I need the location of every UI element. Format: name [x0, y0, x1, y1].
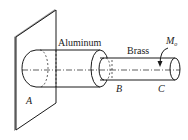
brass-label: Brass — [127, 45, 149, 56]
point-c-label: C — [158, 83, 165, 94]
brass-segment — [99, 58, 180, 80]
point-b-label: B — [116, 83, 122, 94]
moment-label: Mo — [165, 35, 177, 47]
moment-subscript: o — [174, 41, 177, 47]
shaft-diagram: Aluminum Brass A B C Mo — [0, 0, 188, 140]
aluminum-label: Aluminum — [58, 37, 102, 48]
point-a-label: A — [25, 95, 33, 106]
